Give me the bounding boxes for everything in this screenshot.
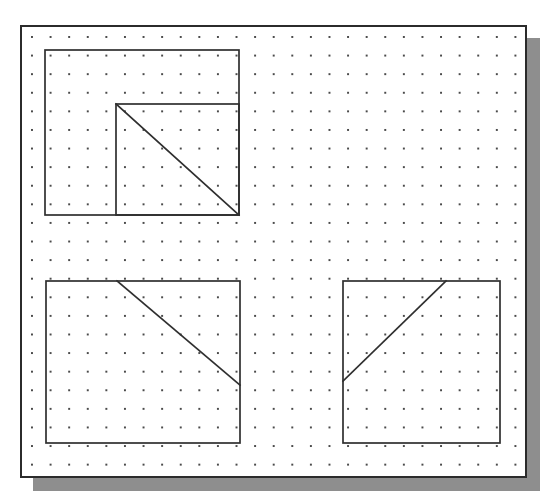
figure-top-left-diagonal: [116, 104, 239, 215]
figure-bottom-left: [46, 281, 240, 443]
figures-svg: [22, 27, 525, 476]
figure-layer: [22, 27, 525, 476]
figure-bottom-right-diagonal: [343, 281, 446, 381]
figure-bottom-left-diagonal: [117, 281, 240, 385]
figure-top-left: [45, 50, 239, 215]
screenshot-root: [0, 0, 559, 503]
figure-bottom-left-square: [46, 281, 240, 443]
dot-grid-paper: [20, 25, 527, 478]
figure-bottom-right: [343, 281, 500, 443]
figure-top-left-outer-square: [45, 50, 239, 215]
